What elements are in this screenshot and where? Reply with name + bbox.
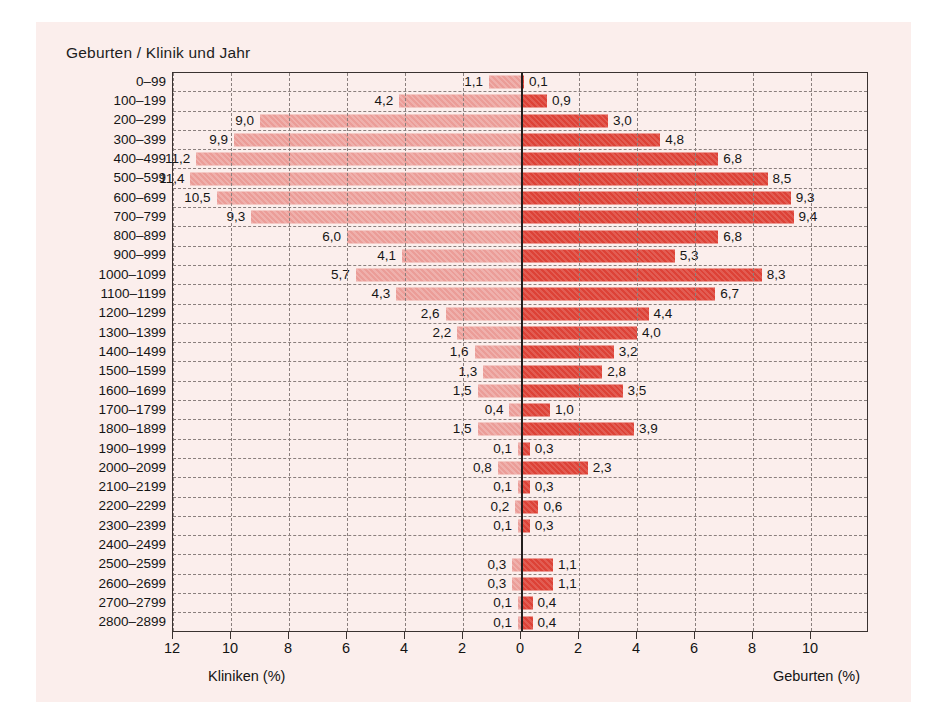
tick-mark xyxy=(230,632,231,639)
bar-kliniken xyxy=(498,462,521,475)
bar-kliniken xyxy=(234,134,521,147)
tick-label: 2 xyxy=(458,640,466,656)
bar-geburten xyxy=(521,95,547,108)
bar-geburten xyxy=(521,519,530,532)
tick-mark xyxy=(404,632,405,639)
bar-value-kliniken: 9,0 xyxy=(235,114,254,128)
bar-geburten xyxy=(521,404,550,417)
category-label: 1600–1699 xyxy=(98,384,166,398)
bar-geburten xyxy=(521,481,530,494)
category-label: 600–699 xyxy=(113,191,166,205)
page-title: Geburten / Klinik und Jahr xyxy=(66,44,250,62)
bar-kliniken xyxy=(251,211,521,224)
bar-row: 11,48,5 xyxy=(173,169,867,188)
bar-row: 0,10,3 xyxy=(173,440,867,459)
bar-geburten xyxy=(521,153,718,166)
bar-kliniken xyxy=(190,172,521,185)
bar-value-kliniken: 0,3 xyxy=(488,577,507,591)
bar-row: 1,32,8 xyxy=(173,362,867,381)
chart-page: Geburten / Klinik und Jahr 0–99100–19920… xyxy=(0,0,927,725)
bar-geburten xyxy=(521,211,794,224)
category-label: 700–799 xyxy=(113,210,166,224)
category-label: 1800–1899 xyxy=(98,422,166,436)
bar-kliniken xyxy=(260,114,521,127)
tick-mark xyxy=(810,632,811,639)
bar-value-geburten: 5,3 xyxy=(680,249,699,263)
category-label: 200–299 xyxy=(113,114,166,128)
bar-value-geburten: 9,3 xyxy=(796,191,815,205)
bar-value-kliniken: 4,1 xyxy=(377,249,396,263)
bar-kliniken xyxy=(478,384,522,397)
bar-value-kliniken: 0,1 xyxy=(493,442,512,456)
bar-row: 1,63,2 xyxy=(173,343,867,362)
bar-row: 0,31,1 xyxy=(173,575,867,594)
bar-rows: 1,10,14,20,99,03,09,94,811,26,811,48,510… xyxy=(173,73,867,631)
bar-value-geburten: 0,9 xyxy=(552,95,571,109)
bar-value-geburten: 6,7 xyxy=(720,288,739,302)
bar-geburten xyxy=(521,558,553,571)
bar-row: 9,03,0 xyxy=(173,112,867,131)
bar-geburten xyxy=(521,500,538,513)
bar-value-geburten: 8,3 xyxy=(767,268,786,282)
bar-kliniken xyxy=(512,577,521,590)
bar-value-geburten: 0,3 xyxy=(535,519,554,533)
bar-value-kliniken: 0,2 xyxy=(490,500,509,514)
bar-value-kliniken: 9,3 xyxy=(227,210,246,224)
bar-value-geburten: 0,3 xyxy=(535,481,554,495)
bar-kliniken xyxy=(347,230,521,243)
bar-geburten xyxy=(521,423,634,436)
category-label: 1000–1099 xyxy=(98,268,166,282)
category-label: 1100–1199 xyxy=(100,287,166,301)
bar-geburten xyxy=(521,462,588,475)
bar-geburten xyxy=(521,577,553,590)
bar-value-geburten: 0,6 xyxy=(543,500,562,514)
bar-value-kliniken: 0,3 xyxy=(488,558,507,572)
bar-geburten xyxy=(521,230,718,243)
bar-row: 0,41,0 xyxy=(173,401,867,420)
bar-geburten xyxy=(521,249,675,262)
bar-geburten xyxy=(521,269,762,282)
bar-value-geburten: 6,8 xyxy=(723,230,742,244)
bar-value-kliniken: 5,7 xyxy=(331,268,350,282)
bar-value-kliniken: 2,2 xyxy=(432,326,451,340)
bar-row: 4,20,9 xyxy=(173,92,867,111)
category-label: 800–899 xyxy=(113,229,166,243)
bar-value-kliniken: 0,1 xyxy=(493,481,512,495)
bar-value-kliniken: 10,5 xyxy=(184,191,210,205)
category-label: 2300–2399 xyxy=(98,519,166,533)
axis-titles: Kliniken (%) Geburten (%) xyxy=(172,668,868,690)
bar-value-kliniken: 1,3 xyxy=(459,365,478,379)
tick-label: 6 xyxy=(690,640,698,656)
bar-value-kliniken: 0,4 xyxy=(485,403,504,417)
bar-value-kliniken: 0,1 xyxy=(493,596,512,610)
bar-value-kliniken: 1,6 xyxy=(450,346,469,360)
category-label: 300–399 xyxy=(113,133,166,147)
bar-value-kliniken: 1,1 xyxy=(464,75,483,89)
category-label: 1200–1299 xyxy=(98,307,166,321)
bar-value-kliniken: 9,9 xyxy=(209,133,228,147)
bar-kliniken xyxy=(512,558,521,571)
bar-row: 1,10,1 xyxy=(173,73,867,92)
bar-row: 6,06,8 xyxy=(173,227,867,246)
tick-label: 10 xyxy=(802,640,818,656)
category-label: 900–999 xyxy=(113,249,166,263)
bar-value-geburten: 1,0 xyxy=(555,403,574,417)
tick-label: 10 xyxy=(222,640,238,656)
bar-geburten xyxy=(521,384,623,397)
bar-value-kliniken: 4,3 xyxy=(372,288,391,302)
tick-label: 4 xyxy=(400,640,408,656)
bar-value-geburten: 8,5 xyxy=(773,172,792,186)
bar-row: 5,78,3 xyxy=(173,266,867,285)
bar-value-kliniken: 4,2 xyxy=(374,95,393,109)
bar-kliniken xyxy=(396,288,521,301)
tick-label: 2 xyxy=(574,640,582,656)
tick-mark xyxy=(346,632,347,639)
bar-row: 9,39,4 xyxy=(173,208,867,227)
category-label: 1900–1999 xyxy=(98,442,166,456)
bar-kliniken xyxy=(356,269,521,282)
bar-geburten xyxy=(521,288,715,301)
bar-value-kliniken: 1,5 xyxy=(453,423,472,437)
bar-geburten xyxy=(521,442,530,455)
tick-label: 12 xyxy=(164,640,180,656)
tick-label: 8 xyxy=(748,640,756,656)
